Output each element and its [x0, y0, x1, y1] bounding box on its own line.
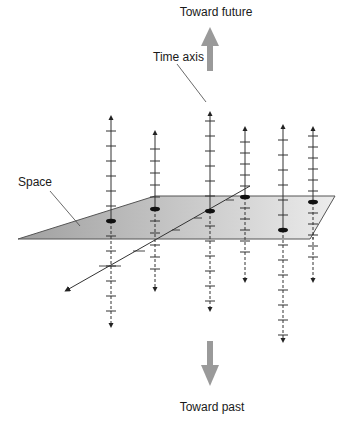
arrow-down-icon — [153, 287, 158, 292]
present-event-marker — [278, 228, 288, 233]
present-event-marker — [106, 219, 116, 224]
space-label: Space — [18, 175, 52, 189]
past-arrow-icon — [201, 341, 219, 386]
space-leader-line — [50, 191, 80, 226]
time-axis-leader-line — [177, 64, 206, 102]
arrow-down-icon — [281, 338, 286, 343]
toward-past-label: Toward past — [180, 400, 245, 414]
arrow-down-icon — [208, 307, 213, 312]
arrow-up-icon — [153, 130, 158, 135]
arrow-up-icon — [311, 126, 316, 131]
arrow-down-icon — [243, 278, 248, 283]
space-plane — [18, 196, 335, 239]
present-event-marker — [240, 195, 250, 200]
arrow-up-icon — [281, 124, 286, 129]
arrow-down-icon — [311, 278, 316, 283]
spacetime-diagram: Toward future Time axis Space Toward pas… — [0, 0, 353, 427]
present-event-marker — [205, 209, 215, 214]
time-axis-5-past — [278, 230, 288, 343]
future-arrow-icon — [201, 27, 219, 71]
arrow-up-icon — [109, 115, 114, 120]
time-axis-label: Time axis — [153, 50, 204, 64]
time-axis-1 — [106, 115, 116, 239]
toward-future-label: Toward future — [180, 5, 253, 19]
present-event-marker — [308, 200, 318, 205]
present-event-marker — [150, 207, 160, 212]
arrow-up-icon — [208, 111, 213, 116]
arrow-up-icon — [243, 126, 248, 131]
arrow-down-icon — [109, 323, 114, 328]
